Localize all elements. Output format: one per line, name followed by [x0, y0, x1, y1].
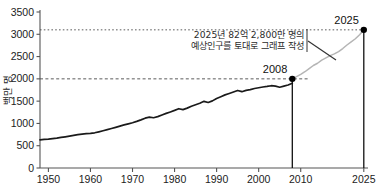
- population-line-chart: 0500100015002000250030003500195019601970…: [0, 0, 376, 193]
- y-axis-title: 백만 명: [2, 75, 13, 105]
- marker-2008-label: 2008: [263, 63, 287, 75]
- y-tick-label: 2500: [11, 50, 35, 62]
- x-tick-label: 2010: [289, 173, 313, 185]
- y-tick-label: 0: [28, 162, 34, 174]
- x-tick-label: 1980: [163, 173, 187, 185]
- x-tick-label: 2025: [352, 173, 376, 185]
- marker-2025-dot: [361, 27, 367, 33]
- annotation-line-1: 2025년 82억 2,800만 명의: [194, 29, 304, 40]
- annotation-line-2: 예상인구를 토대로 그래프 작성: [191, 40, 304, 51]
- x-tick-label: 1990: [205, 173, 229, 185]
- annotation-leader-line: [308, 41, 336, 60]
- y-tick-label: 500: [16, 139, 34, 151]
- marker-2025-label: 2025: [334, 14, 358, 26]
- chart-canvas: 0500100015002000250030003500195019601970…: [0, 0, 376, 193]
- y-tick-label: 2000: [11, 72, 35, 84]
- x-tick-label: 2000: [247, 173, 271, 185]
- x-tick-label: 1950: [37, 173, 61, 185]
- x-tick-label: 1960: [79, 173, 103, 185]
- x-tick-label: 1970: [121, 173, 145, 185]
- y-tick-label: 3500: [11, 6, 35, 18]
- y-tick-label: 3000: [11, 28, 35, 40]
- marker-2008-dot: [289, 76, 295, 82]
- y-tick-label: 1000: [11, 117, 35, 129]
- y-tick-label: 1500: [11, 95, 35, 107]
- historical-line: [40, 83, 292, 140]
